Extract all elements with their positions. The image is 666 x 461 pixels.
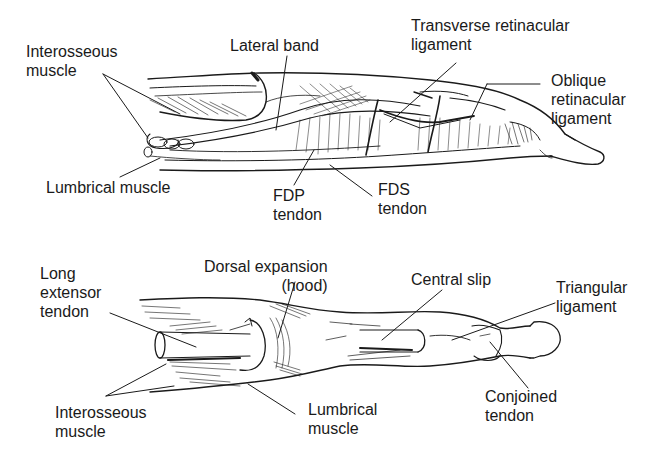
label-long-extensor-tendon: Long extensor tendon (40, 264, 101, 321)
label-line: tendon (273, 205, 322, 224)
label-line: muscle (55, 422, 147, 441)
label-line: Interosseous (55, 403, 147, 422)
label-line: tendon (40, 302, 101, 321)
label-line: Triangular (556, 278, 627, 297)
label-central-slip: Central slip (411, 270, 491, 289)
label-conjoined-tendon: Conjoined tendon (485, 387, 557, 425)
label-interosseous-muscle-top: Interosseous muscle (26, 42, 118, 80)
label-line: muscle (308, 419, 377, 438)
label-line: ligament (411, 35, 570, 54)
label-lumbrical-muscle-bottom: Lumbrical muscle (308, 400, 377, 438)
label-oblique-retinacular-ligament: Oblique retinacular ligament (551, 71, 626, 128)
label-line: (hood) (204, 276, 328, 295)
label-line: Oblique (551, 71, 626, 90)
label-dorsal-expansion: Dorsal expansion (hood) (204, 257, 328, 295)
label-line: Conjoined (485, 387, 557, 406)
label-line: Long (40, 264, 101, 283)
label-line: Lateral band (230, 36, 319, 55)
label-line: tendon (378, 199, 427, 218)
label-line: Dorsal expansion (204, 257, 328, 276)
label-lumbrical-muscle-top: Lumbrical muscle (46, 178, 170, 197)
label-transverse-retinacular-ligament: Transverse retinacular ligament (411, 16, 570, 54)
label-fdp-tendon: FDP tendon (273, 186, 322, 224)
bottom-finger-illustration (140, 298, 560, 392)
label-line: extensor (40, 283, 101, 302)
label-line: Central slip (411, 270, 491, 289)
label-line: FDP (273, 186, 322, 205)
label-line: Interosseous (26, 42, 118, 61)
label-line: tendon (485, 406, 557, 425)
label-line: FDS (378, 180, 427, 199)
label-line: Transverse retinacular (411, 16, 570, 35)
label-line: ligament (551, 109, 626, 128)
label-fds-tendon: FDS tendon (378, 180, 427, 218)
top-finger-illustration (144, 73, 604, 171)
label-line: Lumbrical (308, 400, 377, 419)
label-line: ligament (556, 297, 627, 316)
label-line: retinacular (551, 90, 626, 109)
label-lateral-band: Lateral band (230, 36, 319, 55)
label-interosseous-muscle-bottom: Interosseous muscle (55, 403, 147, 441)
label-triangular-ligament: Triangular ligament (556, 278, 627, 316)
finger-anatomy-diagram: Interosseous muscle Lateral band Transve… (0, 0, 666, 461)
label-line: muscle (26, 61, 118, 80)
label-line: Lumbrical muscle (46, 178, 170, 197)
